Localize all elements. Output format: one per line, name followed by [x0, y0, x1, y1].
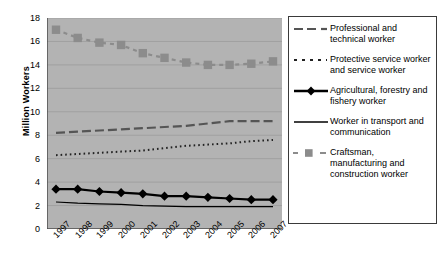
series-3 [51, 185, 277, 205]
legend-item[interactable]: Craftsman, manufacturing and constructio… [293, 147, 432, 180]
legend-item[interactable]: Professional and technical worker [293, 23, 432, 45]
y-axis-tick: 4 [14, 178, 40, 187]
solid-diamond-icon [293, 85, 329, 97]
dotted-icon [293, 54, 329, 66]
long-dash-icon [293, 23, 329, 35]
legend-item-label: Worker in transport and communication [329, 116, 432, 138]
y-axis-tick: 16 [14, 37, 40, 46]
y-axis-tick: 6 [14, 155, 40, 164]
series-0 [52, 26, 277, 70]
solid-thin-icon [293, 116, 329, 128]
y-axis-tick: 8 [14, 131, 40, 140]
y-axis-tick: 10 [14, 108, 40, 117]
y-axis-tick: 2 [14, 202, 40, 211]
x-axis-tick-labels: 1997199819992000200120022003200420052006… [47, 229, 282, 273]
dashed-square-icon [293, 147, 329, 159]
legend-item[interactable]: Protective service worker and service wo… [293, 54, 432, 76]
legend-item-label: Craftsman, manufacturing and constructio… [329, 147, 432, 180]
y-axis-tick-labels: 181614121086420 [14, 0, 40, 273]
y-axis-tick: 12 [14, 84, 40, 93]
chart-legend: Professional and technical workerProtect… [288, 16, 437, 224]
legend-item-label: Protective service worker and service wo… [329, 54, 432, 76]
legend-item[interactable]: Worker in transport and communication [293, 116, 432, 138]
plot-area [47, 18, 282, 229]
legend-item-label: Agricultural, forestry and fishery worke… [329, 85, 432, 107]
y-axis-tick: 18 [14, 14, 40, 23]
series-2 [56, 140, 273, 155]
series-1 [56, 121, 273, 133]
chart-figure: Million Workers 181614121086420 19971998… [0, 0, 442, 273]
plot-canvas [47, 18, 282, 229]
y-axis-tick: 14 [14, 61, 40, 70]
legend-item-label: Professional and technical worker [329, 23, 432, 45]
y-axis-tick: 0 [14, 225, 40, 234]
legend-item[interactable]: Agricultural, forestry and fishery worke… [293, 85, 432, 107]
